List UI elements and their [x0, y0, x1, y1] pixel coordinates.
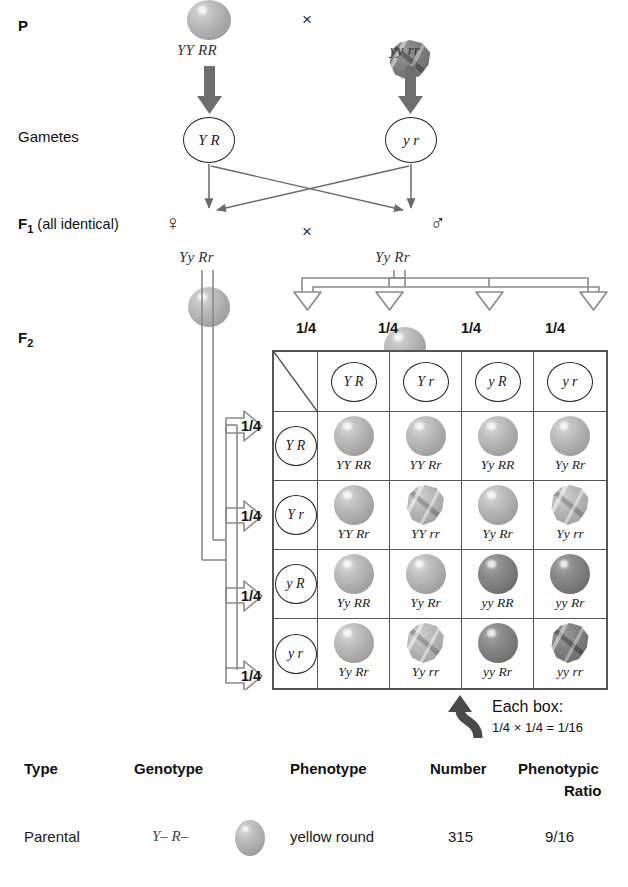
table-row-genotype: Y– R– — [152, 828, 188, 845]
cell-genotype-3-2: yy Rr — [483, 664, 512, 680]
col-gamete-circle-2: y R — [475, 362, 521, 402]
punnett-row-header-2: y R — [274, 550, 318, 619]
row-fraction-1: 1/4 — [241, 508, 261, 524]
punnett-cell-3-3: yy rr — [534, 619, 606, 688]
row-fraction-2: 1/4 — [241, 588, 261, 604]
cell-genotype-2-0: Yy RR — [337, 595, 370, 611]
parent-left-seed — [187, 0, 231, 40]
punnett-corner-cell — [274, 352, 318, 412]
punnett-row-header-0: Y R — [274, 412, 318, 481]
arrow-p-to-gamete-left — [195, 66, 225, 116]
row-gamete-circle-2: y R — [275, 564, 317, 604]
punnett-col-header-2: y R — [462, 352, 534, 412]
row-label-f2: F2 — [18, 330, 33, 349]
punnett-cell-3-0: Yy Rr — [318, 619, 390, 688]
each-box-line1: Each box: — [492, 698, 563, 716]
table-header-phenotype: Phenotype — [290, 760, 367, 777]
col-header-label-3: y r — [562, 374, 577, 390]
cell-seed-0-1 — [406, 416, 446, 456]
f1-left-genotype: Yy Rr — [179, 249, 214, 266]
cell-seed-3-3 — [550, 623, 590, 663]
cell-seed-0-2 — [478, 416, 518, 456]
row-fraction-0: 1/4 — [241, 418, 261, 434]
cell-seed-2-2 — [478, 554, 518, 594]
cell-seed-1-3 — [550, 485, 590, 525]
parent-right-genotype: yy rr — [390, 42, 420, 59]
punnett-cell-1-0: YY Rr — [318, 481, 390, 550]
row-label-f1: F1 (all identical) — [18, 216, 119, 235]
arrow-p-to-gamete-right — [396, 66, 426, 116]
cell-seed-3-1 — [406, 623, 446, 663]
punnett-cell-2-1: Yy Rr — [390, 550, 462, 619]
row-gamete-circle-0: Y R — [275, 426, 317, 466]
table-row-phenotype: yellow round — [290, 828, 374, 845]
row-header-label-2: y R — [286, 576, 304, 592]
col-fraction-0: 1/4 — [296, 320, 316, 336]
punnett-col-header-1: Y r — [390, 352, 462, 412]
punnett-cell-1-3: Yy rr — [534, 481, 606, 550]
female-gamete-branch-arrows — [196, 270, 272, 690]
row-header-label-1: Y r — [287, 507, 304, 523]
cell-genotype-0-3: Yy Rr — [555, 457, 585, 473]
f1-right-genotype: Yy Rr — [375, 249, 410, 266]
row-header-label-0: Y R — [286, 438, 306, 454]
row-fraction-3: 1/4 — [241, 668, 261, 684]
col-fraction-1: 1/4 — [378, 320, 398, 336]
cell-genotype-2-3: yy Rr — [556, 595, 585, 611]
punnett-cell-0-2: Yy RR — [462, 412, 534, 481]
gamete-crossing-arrows — [175, 160, 455, 222]
cell-genotype-1-3: Yy rr — [556, 526, 583, 542]
cell-genotype-2-1: Yy Rr — [410, 595, 440, 611]
each-box-line2: 1/4 × 1/4 = 1/16 — [492, 720, 583, 735]
cell-genotype-1-2: Yy Rr — [482, 526, 512, 542]
gamete-circle-right: y r — [385, 117, 437, 163]
cell-genotype-0-0: YY RR — [336, 457, 371, 473]
cross-symbol-p: × — [302, 10, 312, 30]
punnett-row-header-1: Y r — [274, 481, 318, 550]
col-gamete-circle-1: Y r — [403, 362, 449, 402]
punnett-cell-0-3: Yy Rr — [534, 412, 606, 481]
cell-seed-0-0 — [334, 416, 374, 456]
cell-seed-2-3 — [550, 554, 590, 594]
gamete-left-label: Y R — [198, 132, 219, 149]
gamete-right-label: y r — [403, 132, 419, 149]
row-gamete-circle-1: Y r — [275, 495, 317, 535]
cell-genotype-2-2: yy RR — [482, 595, 514, 611]
parent-left-genotype: YY RR — [177, 42, 217, 59]
table-row-ratio: 9/16 — [545, 828, 574, 845]
row-label-p: P — [18, 18, 28, 33]
cell-genotype-0-1: YY Rr — [410, 457, 442, 473]
punnett-cell-2-2: yy RR — [462, 550, 534, 619]
row-gamete-circle-3: y r — [275, 634, 317, 674]
table-header-genotype: Genotype — [134, 760, 203, 777]
summary-table: Type Genotype Phenotype Number Phenotypi… — [0, 760, 628, 796]
corner-diagonal-line — [274, 352, 317, 411]
col-fraction-3: 1/4 — [545, 320, 565, 336]
cell-seed-1-2 — [478, 485, 518, 525]
table-header-ratio: Ratio — [564, 782, 602, 799]
cell-seed-3-2 — [478, 623, 518, 663]
table-row-seed — [235, 820, 265, 856]
cell-genotype-1-0: YY Rr — [338, 526, 370, 542]
punnett-col-header-0: Y R — [318, 352, 390, 412]
punnett-cell-0-1: YY Rr — [390, 412, 462, 481]
table-header-phenotypic: Phenotypic — [518, 760, 599, 777]
cell-seed-1-1 — [406, 485, 446, 525]
table-row-number: 315 — [448, 828, 473, 845]
punnett-square: Y R Y r y R y r Y R YY RR — [272, 350, 608, 690]
col-gamete-circle-0: Y R — [331, 362, 377, 402]
cell-seed-3-0 — [334, 623, 374, 663]
cell-genotype-3-0: Yy Rr — [338, 664, 368, 680]
dihybrid-cross-diagram: P Gametes F1 (all identical) F2 YY RR × … — [0, 0, 628, 887]
row-label-gametes: Gametes — [18, 128, 79, 145]
cell-genotype-3-3: yy rr — [557, 664, 583, 680]
punnett-cell-3-1: Yy rr — [390, 619, 462, 688]
col-header-label-1: Y r — [417, 374, 434, 390]
punnett-row-header-3: y r — [274, 619, 318, 688]
table-header-number: Number — [430, 760, 487, 777]
punnett-cell-1-2: Yy Rr — [462, 481, 534, 550]
col-header-label-0: Y R — [344, 374, 364, 390]
punnett-cell-2-0: Yy RR — [318, 550, 390, 619]
row-header-label-3: y r — [288, 646, 303, 662]
male-gamete-branch-arrows — [288, 270, 618, 318]
